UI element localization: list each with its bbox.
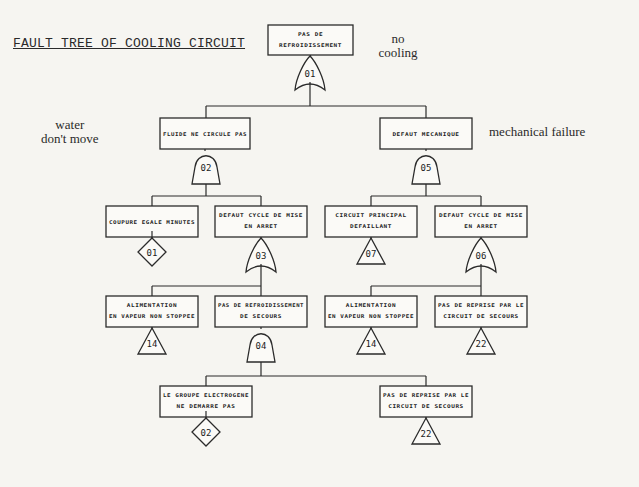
event-box-defaut-cycle-2: DEFAUT CYCLE DE MISEEN ARRET — [435, 206, 527, 239]
event-label: CIRCUIT DE SECOURS — [443, 313, 519, 319]
event-box-top: PAS DEREFROIDISSEMENT — [268, 25, 353, 57]
transfer-number: 22 — [421, 429, 432, 439]
event-label: CIRCUIT DE SECOURS — [388, 403, 464, 409]
transfer-triangle-22: 22 — [412, 418, 440, 444]
annotation-no-cooling: no cooling — [379, 32, 418, 60]
and-gate-04: 04 — [247, 334, 275, 362]
event-label: REFROIDISSEMENT — [279, 42, 342, 48]
transfer-triangle-14: 14 — [138, 328, 166, 354]
diagram-title: FAULT TREE OF COOLING CIRCUIT — [13, 36, 245, 51]
event-label: DEFAUT CYCLE DE MISE — [219, 212, 303, 218]
event-label: DEFAUT MECANIQUE — [392, 131, 459, 137]
event-label: ALIMENTATION — [346, 302, 396, 308]
transfer-number: 07 — [366, 249, 377, 259]
event-box-reprise-2: PAS DE REPRISE PAR LECIRCUIT DE SECOURS — [380, 386, 472, 419]
or-gate-01: 01 — [295, 56, 325, 90]
or-gate-06: 06 — [466, 238, 496, 272]
event-label: PAS DE REPRISE PAR LE — [438, 302, 524, 308]
annotation-mechanical-failure: mechanical failure — [489, 125, 585, 139]
event-label: LE GROUPE ELECTROGENE — [163, 392, 249, 398]
event-label: DEFAUT CYCLE DE MISE — [439, 212, 523, 218]
annotation-water-dont-move: water don't move — [41, 118, 99, 146]
event-label: PAS DE REPRISE PAR LE — [383, 392, 469, 398]
event-box-alim-1: ALIMENTATIONEN VAPEUR NON STOPPEE — [106, 296, 198, 329]
transfer-number: 14 — [366, 339, 377, 349]
transfer-triangle-14: 14 — [357, 328, 385, 354]
event-box-fluide: FLUIDE NE CIRCULE PAS — [160, 118, 250, 151]
connector — [371, 272, 481, 298]
event-label: EN VAPEUR NON STOPPEE — [109, 313, 195, 319]
event-label: CIRCUIT PRINCIPAL — [335, 212, 406, 218]
gate-number: 05 — [421, 163, 432, 173]
event-label: EN ARRET — [464, 223, 498, 229]
event-label: PAS DE REFROIDISSEMENT — [218, 302, 304, 308]
and-gate-05: 05 — [412, 156, 440, 184]
event-label: FLUIDE NE CIRCULE PAS — [163, 131, 247, 137]
gate-number: 04 — [256, 341, 267, 351]
event-label: EN ARRET — [244, 223, 278, 229]
connector — [152, 184, 261, 208]
event-label: NE DEMARRE PAS — [177, 403, 236, 409]
event-label: PAS DE — [298, 31, 323, 37]
event-box-pas-refroid-secours: PAS DE REFROIDISSEMENTDE SECOURS — [215, 296, 307, 329]
event-label: COUPURE EGALE MINUTES — [109, 219, 195, 225]
event-box-defaut-meca: DEFAUT MECANIQUE — [380, 118, 472, 151]
diamond-number: 01 — [147, 248, 158, 258]
and-gate-02: 02 — [192, 156, 220, 184]
gate-number: 03 — [256, 251, 267, 261]
event-label: ALIMENTATION — [127, 302, 177, 308]
gate-number: 01 — [305, 69, 316, 79]
or-gate-03: 03 — [246, 238, 276, 272]
event-box-reprise-1: PAS DE REPRISE PAR LECIRCUIT DE SECOURS — [435, 296, 527, 329]
event-box-circuit-principal: CIRCUIT PRINCIPALDEFAILLANT — [325, 206, 417, 239]
diamond-number: 02 — [201, 428, 212, 438]
connector — [152, 272, 261, 298]
transfer-number: 14 — [147, 339, 158, 349]
gate-number: 02 — [201, 163, 212, 173]
event-box-alim-2: ALIMENTATIONEN VAPEUR NON STOPPEE — [325, 296, 417, 329]
event-label: EN VAPEUR NON STOPPEE — [328, 313, 414, 319]
event-box-defaut-cycle-1: DEFAUT CYCLE DE MISEEN ARRET — [215, 206, 307, 239]
connector — [206, 362, 426, 388]
transfer-triangle-07: 07 — [357, 238, 385, 264]
event-label: DE SECOURS — [240, 313, 282, 319]
connector — [206, 90, 426, 118]
event-label: DEFAILLANT — [350, 223, 392, 229]
gate-number: 06 — [476, 251, 487, 261]
transfer-triangle-22: 22 — [467, 328, 495, 354]
transfer-number: 22 — [476, 339, 487, 349]
connector — [371, 184, 481, 208]
fault-tree-diagram: PAS DEREFROIDISSEMENTFLUIDE NE CIRCULE P… — [0, 0, 639, 487]
